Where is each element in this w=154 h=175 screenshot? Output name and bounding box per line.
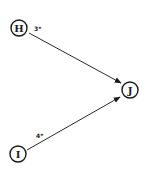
edge-label: 4*	[36, 132, 44, 139]
node-j: J	[122, 82, 138, 98]
arrow-icon	[29, 33, 121, 83]
edge-i-to-j: 4*	[27, 97, 120, 150]
arrow-icon	[27, 97, 120, 150]
diagram-canvas: 3* 4* H I J	[0, 0, 154, 175]
node-label: H	[14, 23, 23, 34]
node-label: I	[16, 149, 21, 160]
node-h: H	[11, 20, 27, 36]
node-label: J	[127, 85, 133, 96]
edge-h-to-j: 3*	[29, 25, 121, 83]
edge-label: 3*	[34, 25, 42, 32]
node-i: I	[10, 146, 26, 162]
